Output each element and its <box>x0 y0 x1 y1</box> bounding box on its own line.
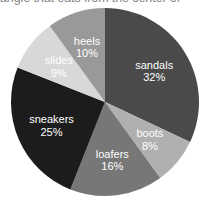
pie-chart: sandals32%boots8%loafers16%sneakers25%sl… <box>0 0 210 204</box>
pie-label-heels: heels10% <box>74 34 100 59</box>
pie-label-name: loafers <box>96 147 129 160</box>
pie-label-percent: 16% <box>96 160 129 173</box>
pie-label-name: heels <box>74 34 100 47</box>
pie-label-name: sandals <box>135 58 173 71</box>
pie-label-name: boots <box>136 127 163 140</box>
pie-label-sandals: sandals32% <box>135 58 173 83</box>
pie-label-percent: 10% <box>74 47 100 60</box>
pie-label-name: sneakers <box>29 113 74 126</box>
pie-label-loafers: loafers16% <box>96 147 129 172</box>
pie-label-slides: slides9% <box>45 54 73 79</box>
pie-label-percent: 32% <box>135 71 173 84</box>
pie-chart-svg <box>0 0 210 204</box>
pie-label-percent: 25% <box>29 125 74 138</box>
pie-label-percent: 8% <box>136 139 163 152</box>
pie-label-boots: boots8% <box>136 127 163 152</box>
pie-label-sneakers: sneakers25% <box>29 113 74 138</box>
pie-label-name: slides <box>45 54 73 67</box>
pie-label-percent: 9% <box>45 66 73 79</box>
